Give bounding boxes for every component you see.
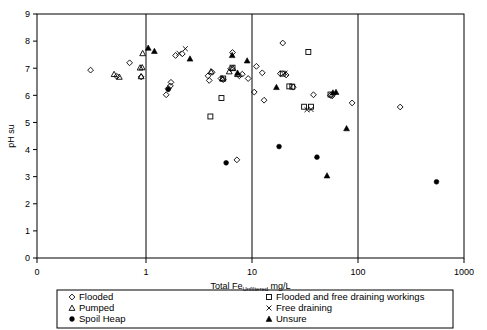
- marker-1-6: [208, 69, 214, 74]
- y-tick-label-0: 0: [25, 253, 30, 263]
- diamond-icon: [261, 97, 267, 103]
- square-icon: [267, 295, 272, 300]
- marker-5-6: [274, 84, 280, 89]
- square-icon: [306, 49, 311, 54]
- filled-circle-icon: [224, 160, 229, 165]
- plot-border: [37, 14, 464, 258]
- marker-5-7: [324, 173, 330, 178]
- diamond-icon: [69, 294, 75, 300]
- marker-0-26: [280, 40, 286, 46]
- filled-circle-icon: [277, 144, 282, 149]
- data-points-layer: [88, 40, 439, 184]
- marker-3-1: [219, 96, 224, 101]
- x-tick-label-4: 1000: [454, 267, 474, 277]
- marker-2-2: [277, 144, 282, 149]
- marker-5-10: [344, 126, 350, 131]
- scatter-plot: pH su 0123456789 01101001000 Total FeUnf…: [0, 0, 487, 330]
- marker-2-1: [224, 160, 229, 165]
- filled-triangle-icon: [266, 316, 272, 321]
- y-axis-title-group: pH su: [6, 124, 16, 148]
- series-flooded: [88, 40, 403, 163]
- marker-0-27: [283, 72, 289, 78]
- legend-entry-flooded-and-free-draining-workings[interactable]: Flooded and free draining workings: [267, 291, 425, 302]
- marker-0-0: [88, 67, 94, 73]
- marker-5-1: [151, 48, 157, 53]
- marker-4-1: [177, 51, 182, 56]
- diamond-icon: [311, 92, 317, 98]
- filled-triangle-icon: [244, 58, 250, 63]
- legend: FloodedPumpedSpoil HeapFlooded and free …: [57, 290, 453, 328]
- marker-3-7: [306, 49, 311, 54]
- series-free-draining: [177, 46, 314, 112]
- filled-circle-icon: [70, 317, 75, 322]
- legend-label-1: Pumped: [79, 302, 114, 313]
- legend-entry-pumped[interactable]: Pumped: [69, 302, 114, 313]
- marker-0-33: [397, 104, 403, 110]
- filled-triangle-icon: [324, 173, 330, 178]
- gridlines: [146, 14, 358, 258]
- y-axis-ticks: 0123456789: [25, 9, 37, 263]
- legend-entry-flooded[interactable]: Flooded: [69, 291, 113, 302]
- marker-legend-3: [267, 295, 272, 300]
- triangle-icon: [69, 305, 75, 310]
- x-tick-label-3: 100: [350, 267, 365, 277]
- y-tick-label-2: 2: [25, 199, 30, 209]
- marker-1-3: [140, 50, 146, 55]
- x-axis-title-subscript: Unfiltered: [242, 286, 268, 292]
- diamond-icon: [349, 100, 355, 106]
- marker-legend-2: [70, 317, 75, 322]
- plot-frame: [37, 14, 464, 258]
- y-tick-label-9: 9: [25, 9, 30, 19]
- diamond-icon: [163, 92, 169, 98]
- marker-5-2: [187, 56, 193, 61]
- diamond-icon: [253, 63, 259, 69]
- diamond-icon: [245, 76, 251, 82]
- triangle-icon: [208, 69, 214, 74]
- series-spoil-heap: [166, 87, 439, 184]
- filled-triangle-icon: [344, 126, 350, 131]
- marker-0-20: [234, 157, 240, 163]
- marker-0-8: [173, 53, 179, 59]
- y-tick-label-7: 7: [25, 64, 30, 74]
- diamond-icon: [173, 53, 179, 59]
- diamond-icon: [88, 67, 94, 73]
- legend-label-2: Spoil Heap: [79, 313, 125, 324]
- diamond-icon: [234, 157, 240, 163]
- legend-entry-spoil-heap[interactable]: Spoil Heap: [70, 313, 126, 324]
- filled-circle-icon: [315, 155, 320, 160]
- marker-3-0: [208, 114, 213, 119]
- square-icon: [219, 96, 224, 101]
- legend-label-3: Flooded and free draining workings: [276, 291, 425, 302]
- marker-0-32: [349, 100, 355, 106]
- marker-legend-5: [266, 316, 272, 321]
- y-tick-label-6: 6: [25, 91, 30, 101]
- marker-0-24: [261, 97, 267, 103]
- filled-triangle-icon: [151, 48, 157, 53]
- legend-entry-free-draining[interactable]: Free draining: [267, 302, 332, 313]
- filled-triangle-icon: [274, 84, 280, 89]
- series-flooded-and-free-draining-workings: [208, 49, 333, 118]
- x-tick-label-2: 10: [247, 267, 257, 277]
- x-tick-label-1: 1: [143, 267, 148, 277]
- marker-0-2: [127, 60, 133, 66]
- marker-legend-0: [69, 294, 75, 300]
- marker-5-5: [244, 58, 250, 63]
- square-icon: [208, 114, 213, 119]
- marker-legend-4: [267, 306, 272, 311]
- filled-circle-icon: [434, 179, 439, 184]
- y-tick-label-4: 4: [25, 145, 30, 155]
- y-tick-label-5: 5: [25, 118, 30, 128]
- legend-label-4: Free draining: [276, 302, 332, 313]
- legend-label-5: Unsure: [276, 313, 307, 324]
- chart-container: pH su 0123456789 01101001000 Total FeUnf…: [0, 0, 487, 330]
- marker-0-23: [259, 70, 265, 76]
- square-icon: [309, 104, 314, 109]
- y-tick-label-3: 3: [25, 172, 30, 182]
- legend-label-0: Flooded: [79, 291, 113, 302]
- marker-3-9: [309, 104, 314, 109]
- x-tick-label-0: 0: [34, 267, 39, 277]
- legend-entry-unsure[interactable]: Unsure: [266, 313, 307, 324]
- y-tick-label-8: 8: [25, 36, 30, 46]
- marker-0-4: [163, 92, 169, 98]
- triangle-icon: [140, 50, 146, 55]
